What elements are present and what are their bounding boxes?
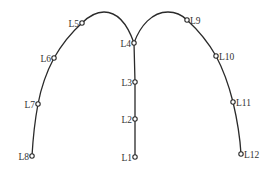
- stem-line: [134, 43, 135, 157]
- nodes-layer: L1L2L3L4L5L6L7L8L9L10L11L12: [18, 16, 259, 163]
- node-label: L6: [40, 54, 51, 64]
- node-label: L5: [68, 19, 79, 29]
- node-label: L12: [244, 150, 260, 160]
- node-marker-icon: [132, 41, 136, 45]
- node-label: L4: [120, 39, 131, 49]
- node-marker-icon: [133, 80, 137, 84]
- node-l10: L10: [214, 52, 235, 62]
- node-marker-icon: [133, 155, 137, 159]
- node-diagram: L1L2L3L4L5L6L7L8L9L10L11L12: [0, 0, 273, 175]
- right-arch-curve: [134, 12, 241, 154]
- node-marker-icon: [36, 102, 40, 106]
- node-l5: L5: [68, 19, 84, 29]
- node-marker-icon: [133, 117, 137, 121]
- node-l12: L12: [239, 150, 260, 160]
- node-label: L9: [190, 16, 201, 26]
- node-marker-icon: [52, 56, 56, 60]
- node-marker-icon: [80, 21, 84, 25]
- node-marker-icon: [30, 154, 34, 158]
- node-label: L2: [121, 115, 132, 125]
- node-l9: L9: [185, 16, 201, 26]
- node-label: L10: [219, 52, 235, 62]
- node-label: L8: [18, 152, 29, 162]
- node-marker-icon: [231, 100, 235, 104]
- node-l6: L6: [40, 54, 56, 64]
- node-label: L11: [236, 98, 251, 108]
- node-marker-icon: [239, 152, 243, 156]
- left-arch-curve: [32, 12, 134, 156]
- node-marker-icon: [185, 18, 189, 22]
- node-label: L1: [121, 153, 132, 163]
- node-label: L3: [121, 78, 132, 88]
- node-marker-icon: [214, 54, 218, 58]
- node-label: L7: [24, 100, 35, 110]
